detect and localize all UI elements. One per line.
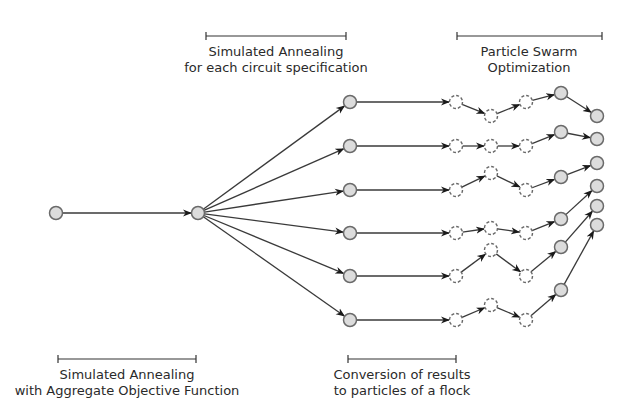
particle-node-3-2 (485, 167, 498, 180)
particle-node-4-3 (520, 227, 533, 240)
brackets-layer (58, 32, 602, 363)
particle-node-6-1 (450, 314, 463, 327)
particle-node-4-2 (485, 222, 498, 235)
bracket-pso (457, 32, 602, 40)
pso-node-3 (555, 171, 568, 184)
edge-row6-step2 (462, 308, 485, 318)
final-node-3 (591, 157, 604, 170)
edge-row3-step2 (462, 176, 485, 187)
particle-node-2-3 (520, 140, 533, 153)
final-node-5 (591, 200, 604, 213)
edge-row4-step4 (532, 222, 554, 231)
label-sa-each-line2: for each circuit specification (184, 60, 368, 75)
edge-row5-step5 (565, 211, 592, 242)
particle-node-5-3 (520, 270, 533, 283)
particle-node-2-1 (450, 140, 463, 153)
hub-node (192, 207, 205, 220)
label-sa-each: Simulated Annealing for each circuit spe… (184, 44, 368, 75)
edge-row4-step5 (566, 191, 592, 215)
edge-row4-step2 (462, 229, 484, 232)
bracket-sa-aggregate (58, 355, 196, 363)
edge-hub-to-sa-6 (203, 217, 344, 316)
particle-node-4-1 (450, 227, 463, 240)
particle-node-2-2 (485, 140, 498, 153)
particle-node-5-2 (485, 244, 498, 257)
edge-row4-step3 (497, 229, 519, 232)
edge-row1-step3 (497, 105, 519, 114)
label-pso: Particle Swarm Optimization (481, 44, 578, 75)
edge-row1-step2 (462, 104, 484, 113)
edge-row6-step3 (497, 308, 520, 318)
label-pso-line2: Optimization (487, 60, 570, 75)
label-sa-each-line1: Simulated Annealing (209, 44, 344, 59)
edge-hub-to-sa-5 (204, 215, 344, 273)
edge-row5-step2 (461, 254, 485, 272)
pso-node-6 (555, 284, 568, 297)
edge-row2-step4 (532, 135, 554, 144)
label-conversion-line1: Conversion of results (333, 367, 470, 382)
sa-node-3 (344, 184, 357, 197)
final-node-2 (591, 133, 604, 146)
particle-node-3-3 (520, 184, 533, 197)
label-sa-aggregate-line2: with Aggregate Objective Function (15, 383, 240, 398)
sa-node-1 (344, 96, 357, 109)
edge-row1-step5 (566, 96, 591, 112)
sa-node-6 (344, 314, 357, 327)
sa-node-2 (344, 140, 357, 153)
optimization-flow-diagram: Simulated Annealing for each circuit spe… (0, 0, 625, 418)
label-sa-aggregate-line1: Simulated Annealing (60, 367, 195, 382)
sa-node-5 (344, 270, 357, 283)
edges-layer (63, 95, 594, 320)
edge-row3-step3 (497, 176, 520, 187)
bracket-conversion (348, 355, 456, 363)
pso-node-4 (555, 213, 568, 226)
edge-hub-to-sa-4 (204, 214, 343, 232)
edge-row5-step3 (496, 254, 520, 272)
particle-node-1-3 (520, 96, 533, 109)
sa-node-4 (344, 227, 357, 240)
label-conversion: Conversion of results to particles of a … (333, 367, 470, 398)
final-node-4 (591, 180, 604, 193)
edge-row6-step4 (531, 295, 556, 316)
particle-node-5-1 (450, 270, 463, 283)
edge-row1-step4 (532, 95, 554, 101)
label-sa-aggregate: Simulated Annealing with Aggregate Objec… (15, 367, 240, 398)
edge-row3-step4 (532, 179, 554, 187)
nodes-layer (50, 87, 604, 327)
particle-node-1-1 (450, 96, 463, 109)
particle-node-3-1 (450, 184, 463, 197)
edge-row2-step5 (567, 133, 590, 137)
final-node-6 (591, 219, 604, 232)
pso-node-2 (555, 126, 568, 139)
pso-node-1 (555, 87, 568, 100)
edge-row5-step4 (531, 251, 556, 271)
particle-node-6-2 (485, 299, 498, 312)
start-node (50, 207, 63, 220)
bracket-sa-each (206, 32, 346, 40)
final-node-1 (591, 110, 604, 123)
particle-node-6-3 (520, 314, 533, 327)
edge-row3-step5 (567, 166, 590, 175)
particle-node-1-2 (485, 110, 498, 123)
label-pso-line1: Particle Swarm (481, 44, 578, 59)
label-conversion-line2: to particles of a flock (334, 383, 471, 398)
pso-node-5 (555, 241, 568, 254)
